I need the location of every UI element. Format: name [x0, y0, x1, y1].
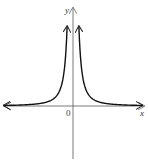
right-branch — [79, 27, 143, 106]
origin-label: 0 — [66, 108, 71, 118]
y-axis-label: y — [64, 5, 69, 15]
left-branch — [3, 27, 67, 106]
graph: x y 0 — [0, 0, 148, 161]
x-axis-label: x — [139, 108, 144, 118]
